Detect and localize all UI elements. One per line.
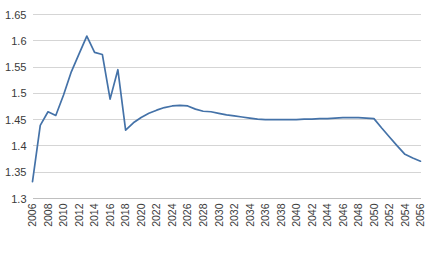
data-series-group (33, 36, 421, 182)
y-axis-tick-label: 1.5 (11, 87, 26, 99)
x-axis-tick-labels: 2006200820102012201420162018202020222024… (26, 203, 426, 227)
y-axis-tick-label: 1.3 (11, 193, 26, 205)
x-axis-tick-label: 2020 (135, 203, 147, 227)
x-axis-tick-label: 2006 (26, 203, 38, 227)
chart-canvas: 1.31.351.41.451.51.551.61.65 20062008201… (0, 0, 428, 254)
y-axis-tick-labels: 1.31.351.41.451.51.551.61.65 (5, 9, 26, 205)
x-axis-tick-label: 2022 (150, 203, 162, 227)
y-axis-tick-label: 1.45 (5, 114, 26, 126)
x-axis-tick-label: 2010 (57, 203, 69, 227)
x-axis-tick-label: 2026 (182, 203, 194, 227)
x-axis-tick-label: 2050 (368, 203, 380, 227)
x-axis-tick-label: 2014 (88, 203, 100, 227)
x-axis-tick-label: 2016 (104, 203, 116, 227)
y-axis-tick-label: 1.4 (11, 140, 26, 152)
y-axis-tick-label: 1.6 (11, 35, 26, 47)
x-axis-tick-label: 2036 (259, 203, 271, 227)
x-axis-tick-label: 2008 (42, 203, 54, 227)
x-axis-tick-label: 2042 (306, 203, 318, 227)
x-axis-tick-label: 2054 (399, 203, 411, 227)
x-axis-tick-label: 2032 (228, 203, 240, 227)
x-axis-tick-label: 2052 (383, 203, 395, 227)
x-axis-tick-label: 2012 (73, 203, 85, 227)
x-axis-tick-label: 2030 (213, 203, 225, 227)
x-axis-tick-label: 2034 (244, 203, 256, 227)
x-axis-tick-label: 2024 (166, 203, 178, 227)
gridlines (33, 15, 421, 199)
y-axis-tick-label: 1.35 (5, 166, 26, 178)
line-chart: 1.31.351.41.451.51.551.61.65 20062008201… (0, 0, 428, 254)
x-axis-tick-label: 2040 (290, 203, 302, 227)
data-line (33, 36, 421, 182)
x-axis-tick-label: 2038 (275, 203, 287, 227)
x-axis-tick-label: 2044 (321, 203, 333, 227)
y-axis-tick-label: 1.55 (5, 61, 26, 73)
x-axis-tick-label: 2028 (197, 203, 209, 227)
x-axis-tick-label: 2046 (337, 203, 349, 227)
y-axis-tick-label: 1.65 (5, 9, 26, 21)
x-axis-tick-label: 2048 (352, 203, 364, 227)
x-axis-tick-label: 2018 (119, 203, 131, 227)
x-axis-tick-label: 2056 (414, 203, 426, 227)
